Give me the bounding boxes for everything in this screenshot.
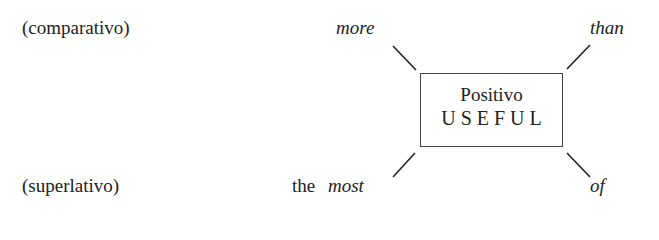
positive-box: Positivo USEFUL	[420, 73, 563, 147]
line-more	[393, 46, 416, 70]
line-most	[393, 153, 415, 177]
line-than	[567, 45, 590, 69]
box-word: USEFUL	[421, 106, 562, 130]
line-of	[567, 153, 590, 177]
box-title: Positivo	[421, 84, 562, 106]
